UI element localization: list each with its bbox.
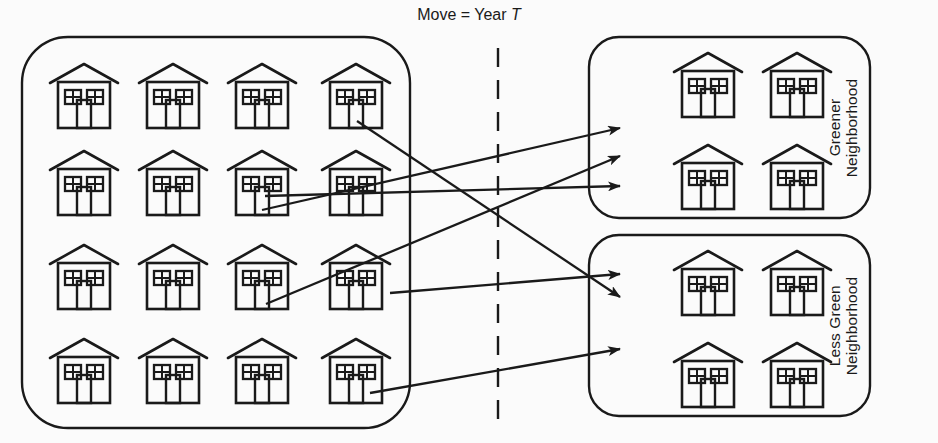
house-icon [674,53,742,117]
arrow-to-greener-1 [265,186,620,196]
house-icon [139,64,207,128]
house-icon [139,151,207,215]
house-icon [763,251,831,315]
house-icon [139,339,207,403]
house-icon [50,339,118,403]
diagram-canvas: Move = Year T Greener Neighborhood Less [0,0,938,443]
house-icon [228,64,296,128]
house-icon [674,145,742,209]
house-icon [50,151,118,215]
arrow-to-greener-2 [262,128,620,210]
house-icon [763,53,831,117]
house-icon [228,339,296,403]
house-icon [674,251,742,315]
arrow-to-less-green-3 [370,349,620,393]
house-icon [322,339,390,403]
house-icon [674,343,742,407]
house-icon [322,64,390,128]
arrow-to-less-green-1 [357,121,620,297]
arrow-to-less-green-2 [390,274,620,293]
house-icon [763,343,831,407]
house-icon [763,145,831,209]
neighborhood-boxes [22,37,870,428]
house-icon [139,245,207,309]
house-icon [50,64,118,128]
house-icon [228,245,296,309]
house-icon [50,245,118,309]
move-arrows-layer [262,121,620,393]
diagram-svg [0,0,938,443]
